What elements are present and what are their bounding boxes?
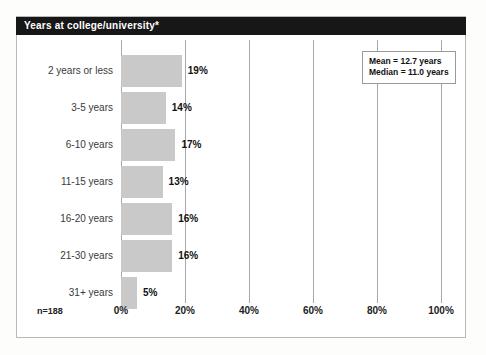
x-axis-tick-label: 20% <box>165 305 205 316</box>
x-axis-tick-label: 100% <box>421 305 461 316</box>
gridline <box>313 40 314 303</box>
category-label: 16-20 years <box>5 213 113 224</box>
bar-value-label: 19% <box>188 65 208 76</box>
mean-label: Mean = 12.7 years <box>369 56 450 67</box>
bar <box>121 55 182 87</box>
chart-figure: Years at college/university* 19%14%17%13… <box>0 0 486 355</box>
bar <box>121 166 163 198</box>
category-label: 11-15 years <box>5 176 113 187</box>
bar-value-label: 16% <box>178 213 198 224</box>
x-axis-tick-label: 60% <box>293 305 333 316</box>
category-label: 3-5 years <box>5 102 113 113</box>
stats-box: Mean = 12.7 years Median = 11.0 years <box>362 51 456 84</box>
bar <box>121 92 166 124</box>
bar-value-label: 16% <box>178 250 198 261</box>
bar-value-label: 5% <box>143 287 157 298</box>
category-label: 21-30 years <box>5 250 113 261</box>
x-axis-tick-label: 0% <box>101 305 141 316</box>
category-label: 6-10 years <box>5 139 113 150</box>
bar <box>121 203 172 235</box>
x-axis-tick-label: 80% <box>357 305 397 316</box>
sample-size-label: n=188 <box>37 306 63 316</box>
bar-value-label: 14% <box>172 102 192 113</box>
bar <box>121 129 175 161</box>
title-band: Years at college/university* <box>16 17 466 35</box>
gridline <box>185 40 186 303</box>
page-title: Years at college/university* <box>24 20 159 31</box>
median-label: Median = 11.0 years <box>369 67 450 78</box>
bar-value-label: 17% <box>181 139 201 150</box>
category-label: 31+ years <box>5 287 113 298</box>
category-label: 2 years or less <box>5 65 113 76</box>
bar <box>121 240 172 272</box>
gridline <box>249 40 250 303</box>
x-axis-tick-label: 40% <box>229 305 269 316</box>
bar-value-label: 13% <box>169 176 189 187</box>
